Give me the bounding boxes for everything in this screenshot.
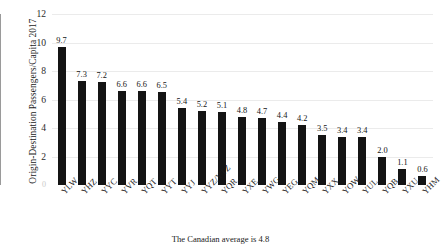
chart-caption: The Canadian average is 4.8 — [0, 234, 441, 244]
bar-slot[interactable]: 7.3 — [73, 14, 92, 185]
bar-slot[interactable]: 1.1 — [393, 14, 412, 185]
y-tick-label: 8 — [22, 66, 46, 76]
bar-slot[interactable]: 3.5 — [313, 14, 332, 185]
y-tick-label: 12 — [22, 9, 46, 19]
bar-chart: Origin-Destination Passengers/Capita 201… — [0, 0, 441, 251]
y-tick-label: 6 — [22, 95, 46, 105]
bar[interactable] — [378, 157, 386, 186]
bar[interactable] — [178, 108, 186, 185]
y-tick-label: 0 — [22, 180, 46, 190]
bar-slot[interactable]: 9.7 — [53, 14, 72, 185]
bar-slot[interactable]: 4.7 — [253, 14, 272, 185]
bar-slot[interactable]: 3.4 — [353, 14, 372, 185]
bar-value-label: 3.4 — [350, 126, 374, 135]
y-tick-label: 2 — [22, 152, 46, 162]
bar[interactable] — [338, 137, 346, 185]
plot-area: 9.77.37.26.66.66.55.45.25.14.84.74.44.23… — [52, 14, 433, 185]
bar[interactable] — [238, 117, 246, 185]
bar[interactable] — [298, 125, 306, 185]
bar[interactable] — [118, 91, 126, 185]
bar-slot[interactable]: 4.8 — [233, 14, 252, 185]
bar-value-label: 0.6 — [410, 165, 434, 174]
bar[interactable] — [358, 137, 366, 185]
bar-value-label: 9.7 — [50, 36, 74, 45]
bar[interactable] — [158, 92, 166, 185]
bar[interactable] — [78, 81, 86, 185]
bar-slot[interactable]: 6.6 — [113, 14, 132, 185]
y-tick-label: 10 — [22, 38, 46, 48]
bar[interactable] — [98, 82, 106, 185]
bar[interactable] — [258, 118, 266, 185]
y-axis-line — [0, 14, 1, 185]
bar[interactable] — [318, 135, 326, 185]
bar-slot[interactable]: 7.2 — [93, 14, 112, 185]
bar-value-label: 4.2 — [290, 114, 314, 123]
bar-slot[interactable]: 3.4 — [333, 14, 352, 185]
bar[interactable] — [138, 91, 146, 185]
bar-slot[interactable]: 4.2 — [293, 14, 312, 185]
bar-value-label: 2.0 — [370, 146, 394, 155]
bar-slot[interactable]: 5.1 — [213, 14, 232, 185]
y-tick-label: 4 — [22, 123, 46, 133]
bar[interactable] — [58, 47, 66, 185]
bar[interactable] — [198, 111, 206, 185]
bar-value-label: 6.5 — [150, 81, 174, 90]
bar-slot[interactable]: 6.6 — [133, 14, 152, 185]
bar-slot[interactable]: 4.4 — [273, 14, 292, 185]
bar-slot[interactable]: 0.6 — [413, 14, 432, 185]
bar[interactable] — [278, 122, 286, 185]
bar-slot[interactable]: 5.2 — [193, 14, 212, 185]
